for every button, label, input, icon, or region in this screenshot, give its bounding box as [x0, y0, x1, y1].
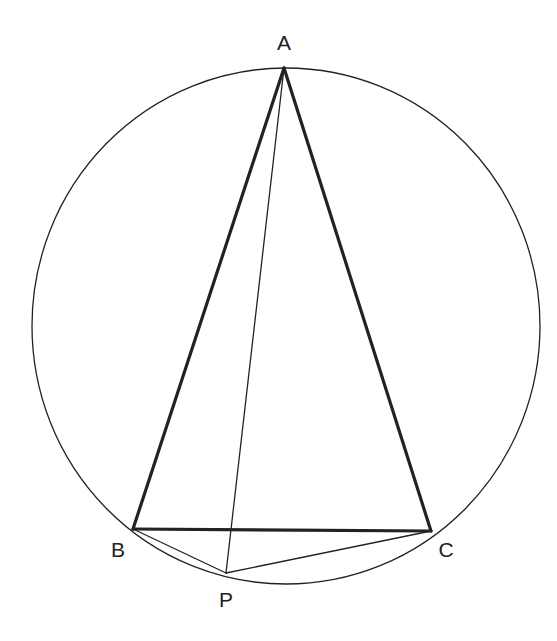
- segment-bc: [133, 529, 431, 531]
- label-p: P: [219, 588, 233, 611]
- label-b: B: [111, 538, 125, 561]
- segment-ab: [133, 68, 284, 529]
- segment-ap: [226, 68, 284, 573]
- segments: [133, 68, 431, 573]
- circumcircle: [32, 68, 540, 584]
- segment-bp: [133, 529, 226, 573]
- geometry-diagram: A B C P: [0, 0, 557, 641]
- segment-cp: [226, 531, 431, 573]
- segment-ac: [284, 68, 431, 531]
- label-c: C: [438, 538, 453, 561]
- point-labels: A B C P: [111, 31, 454, 611]
- label-a: A: [277, 31, 291, 54]
